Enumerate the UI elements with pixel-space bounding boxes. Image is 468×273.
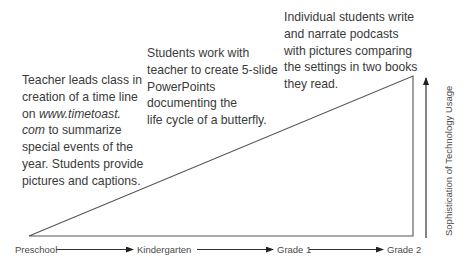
- activity-line: year. Students provide: [22, 156, 143, 173]
- activity-grade1: Individual students write and narrate po…: [284, 9, 417, 93]
- activity-line: com to summarize: [22, 122, 143, 139]
- website-link-text: com: [22, 123, 45, 137]
- activity-line: the settings in two books: [284, 59, 417, 76]
- activity-preschool: Teacher leads class in creation of a tim…: [22, 72, 143, 190]
- activity-line: creation of a time line: [22, 89, 143, 106]
- activity-line: teacher to create 5-slide: [147, 62, 278, 79]
- activity-line: special events of the: [22, 139, 143, 156]
- stage-label-kindergarten: Kindergarten: [137, 244, 191, 255]
- activity-line: life cycle of a butterfly.: [147, 112, 278, 129]
- activity-line: documenting the: [147, 95, 278, 112]
- activity-line: Teacher leads class in: [22, 72, 143, 89]
- activity-line: they read.: [284, 76, 417, 93]
- activity-line: on www.timetoast.: [22, 106, 143, 123]
- y-axis-label: Sophistication of Technology Usage: [443, 86, 454, 236]
- activity-line: PowerPoints: [147, 79, 278, 96]
- text-segment: on: [22, 107, 39, 121]
- text-segment: to summarize: [45, 123, 122, 137]
- stage-label-grade2: Grade 2: [387, 244, 421, 255]
- stage-label-grade1: Grade 1: [277, 244, 311, 255]
- website-link-text: www.timetoast.: [39, 107, 121, 121]
- activity-line: and narrate podcasts: [284, 26, 417, 43]
- activity-line: with pictures comparing: [284, 43, 417, 60]
- activity-line: pictures and captions.: [22, 173, 143, 190]
- activity-kindergarten: Students work with teacher to create 5-s…: [147, 45, 278, 129]
- stage-label-preschool: Preschool: [15, 244, 57, 255]
- activity-line: Individual students write: [284, 9, 417, 26]
- activity-line: Students work with: [147, 45, 278, 62]
